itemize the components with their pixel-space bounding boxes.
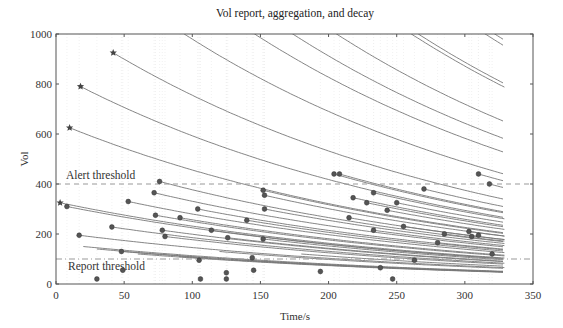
- report-point: [224, 270, 229, 275]
- decay-curve: [435, 0, 503, 22]
- report-point: [209, 228, 214, 233]
- report-point: [378, 265, 383, 270]
- x-tick-label: 50: [119, 289, 131, 301]
- x-tick-label: 0: [53, 289, 59, 301]
- report-point: [490, 252, 495, 257]
- report-point: [364, 200, 369, 205]
- report-point: [225, 235, 230, 240]
- report-point: [332, 172, 337, 177]
- chart-title: Vol report, aggregation, and decay: [216, 7, 374, 20]
- report-point: [476, 172, 481, 177]
- report-point: [442, 232, 447, 237]
- report-point: [77, 233, 82, 238]
- report-point: [401, 224, 406, 229]
- x-tick-label: 100: [184, 289, 201, 301]
- report-point: [487, 182, 492, 187]
- plot-frame: [56, 34, 533, 284]
- x-tick-label: 200: [320, 289, 337, 301]
- y-tick-label: 1000: [30, 28, 53, 40]
- y-tick-label: 600: [36, 128, 53, 140]
- report-point: [412, 258, 417, 263]
- x-tick-label: 250: [388, 289, 405, 301]
- decay-curve: [138, 0, 503, 152]
- report-point: [262, 207, 267, 212]
- decay-curve: [206, 0, 503, 138]
- report-point: [126, 199, 131, 204]
- report-point: [337, 172, 342, 177]
- star-icon: [77, 83, 84, 90]
- report-point: [160, 228, 165, 233]
- report-point: [244, 218, 249, 223]
- y-axis-ticks: 02004006008001000: [30, 28, 533, 290]
- threshold-label: Report threshold: [68, 260, 145, 273]
- report-point: [163, 234, 168, 239]
- report-point: [250, 255, 255, 260]
- report-point: [261, 188, 266, 193]
- x-tick-label: 300: [457, 289, 474, 301]
- y-tick-label: 800: [36, 78, 53, 90]
- decay-curve: [383, 0, 503, 45]
- report-point: [251, 268, 256, 273]
- report-point: [157, 179, 162, 184]
- report-point: [422, 187, 427, 192]
- report-point: [119, 249, 124, 254]
- report-point: [371, 190, 376, 195]
- y-tick-label: 200: [36, 228, 53, 240]
- aggregation-stars: [57, 49, 117, 206]
- y-tick-label: 0: [47, 278, 53, 290]
- report-point: [261, 237, 266, 242]
- y-tick-label: 400: [36, 178, 53, 190]
- report-point: [178, 215, 183, 220]
- decay-curve: [81, 87, 504, 218]
- decay-curve: [410, 0, 503, 8]
- decay-curve: [479, 174, 504, 181]
- report-point: [467, 229, 472, 234]
- decay-curve: [113, 53, 503, 199]
- report-point: [476, 233, 481, 238]
- report-point: [318, 269, 323, 274]
- star-icon: [57, 199, 64, 206]
- x-tick-label: 150: [252, 289, 269, 301]
- decay-curve: [363, 0, 505, 32]
- decay-curve: [465, 14, 503, 39]
- star-icon: [66, 124, 73, 131]
- report-point: [120, 268, 125, 273]
- report-point: [197, 258, 202, 263]
- report-point: [195, 207, 200, 212]
- report-point: [394, 200, 399, 205]
- report-point: [371, 228, 376, 233]
- report-point: [435, 240, 440, 245]
- report-point: [109, 225, 114, 230]
- report-point: [153, 213, 158, 218]
- report-point: [262, 193, 267, 198]
- report-point: [65, 204, 70, 209]
- report-point: [469, 234, 474, 239]
- threshold-label: Alert threshold: [66, 169, 136, 181]
- decay-chart: Vol report, aggregation, and decay Alert…: [0, 0, 563, 328]
- x-axis-label: Time/s: [280, 310, 310, 322]
- report-point: [385, 208, 390, 213]
- report-point: [198, 277, 203, 282]
- x-tick-label: 350: [525, 289, 542, 301]
- report-point: [224, 277, 229, 282]
- report-point: [390, 277, 395, 282]
- report-point: [351, 195, 356, 200]
- report-point: [94, 277, 99, 282]
- decay-curve: [451, 0, 503, 32]
- decay-curve: [113, 0, 503, 174]
- report-point: [347, 215, 352, 220]
- y-axis-label: Vol: [18, 151, 30, 166]
- report-point: [152, 190, 157, 195]
